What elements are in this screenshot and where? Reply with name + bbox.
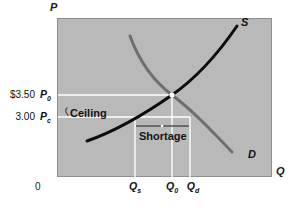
price-tick-p0-symbol-letter: P [40, 88, 47, 100]
y-axis-title: P [50, 2, 57, 13]
price-tick-pc-value: 3.00 [16, 112, 35, 122]
x-axis-title: Q [276, 166, 285, 177]
price-tick-pc: 3.00 Pc [0, 111, 56, 124]
shortage-annotation-label: Shortage [139, 131, 187, 142]
quantity-tick-qs-subscript: s [137, 187, 141, 194]
ceiling-pointer-icon [66, 108, 68, 115]
supply-curve-label: S [241, 17, 248, 28]
equilibrium-point-marker [169, 92, 174, 97]
price-tick-pc-symbol: Pc [40, 111, 56, 124]
quantity-tick-qd-letter: Q [187, 180, 195, 192]
quantity-tick-qs-letter: Q [129, 180, 137, 192]
quantity-tick-qs: Qs [129, 181, 141, 194]
price-tick-p0: $3.50 P0 [0, 89, 56, 102]
price-tick-p0-symbol: P0 [40, 89, 56, 102]
chart-vector-layer [0, 0, 293, 212]
demand-curve-label: D [248, 149, 256, 160]
supply-curve [87, 26, 237, 141]
quantity-tick-qd-subscript: d [195, 187, 199, 194]
quantity-tick-q0-letter: Q [166, 180, 174, 192]
shortage-bracket-midpoint [161, 125, 164, 128]
origin-label: 0 [35, 182, 41, 192]
quantity-tick-qd: Qd [187, 181, 199, 194]
price-tick-pc-subscript: c [47, 117, 51, 124]
price-tick-p0-value: $3.50 [10, 90, 35, 100]
price-tick-pc-symbol-letter: P [40, 110, 47, 122]
price-tick-p0-subscript: 0 [47, 95, 51, 102]
ceiling-annotation-label: Ceiling [70, 108, 107, 119]
quantity-tick-q0: Q0 [166, 181, 178, 194]
quantity-tick-q0-subscript: 0 [174, 187, 178, 194]
supply-demand-price-ceiling-figure: P Q 0 $3.50 P0 3.00 Pc Qs Q0 Qd Ceiling … [0, 0, 293, 212]
